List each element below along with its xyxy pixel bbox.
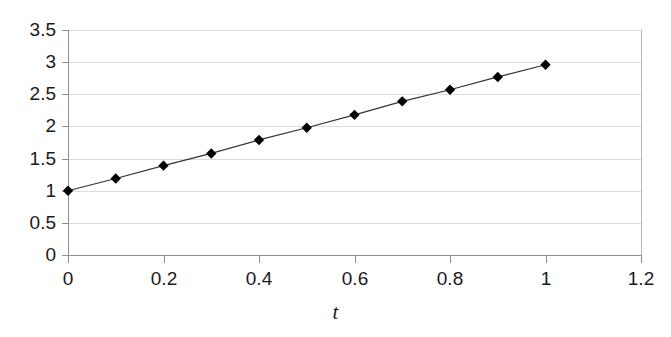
data-point-marker	[254, 135, 264, 145]
data-point-marker	[349, 110, 359, 120]
data-point-marker	[63, 186, 73, 196]
data-point-marker	[302, 123, 312, 133]
data-point-marker	[397, 96, 407, 106]
x-axis-title: t	[0, 300, 671, 325]
series-markers	[63, 60, 551, 196]
chart-figure: 00.511.522.533.5 00.20.40.60.811.2 t	[0, 0, 671, 337]
data-point-marker	[540, 60, 550, 70]
data-point-marker	[493, 72, 503, 82]
data-point-marker	[206, 148, 216, 158]
data-series-layer	[0, 0, 671, 337]
data-point-marker	[158, 160, 168, 170]
data-point-marker	[445, 85, 455, 95]
data-point-marker	[111, 173, 121, 183]
